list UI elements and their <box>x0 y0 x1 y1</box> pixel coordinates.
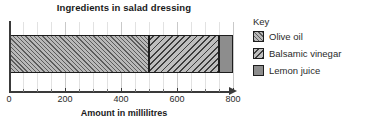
legend-label-olive-oil: Olive oil <box>269 31 303 42</box>
bar-segment-lemon-juice <box>219 35 233 73</box>
xtick-700 <box>205 89 206 92</box>
y-axis-line <box>9 21 11 92</box>
xtick-450 <box>135 89 136 92</box>
xtick-500 <box>149 89 150 92</box>
xtick-650 <box>191 89 192 92</box>
legend-item-olive-oil: Olive oil <box>253 29 371 44</box>
gridline-800 <box>233 22 234 92</box>
x-axis-line <box>9 91 231 93</box>
xtick-400 <box>121 88 122 92</box>
xtick-250 <box>79 89 80 92</box>
xtick-800 <box>233 88 234 92</box>
xtick-label-200: 200 <box>57 94 72 104</box>
x-axis-title: Amount in millilitres <box>9 108 239 118</box>
chart-title: Ingredients in salad dressing <box>9 2 239 13</box>
bar-chart-figure: Ingredients in salad dressing <box>0 0 373 124</box>
balsamic-vinegar-swatch-icon <box>253 48 264 59</box>
xtick-50 <box>23 89 24 92</box>
legend-label-lemon-juice: Lemon juice <box>269 65 320 76</box>
xtick-550 <box>163 89 164 92</box>
xtick-600 <box>177 88 178 92</box>
legend: Key Olive oil Balsamic vinegar Lemon jui… <box>253 16 371 80</box>
xtick-300 <box>93 89 94 92</box>
xtick-100 <box>37 89 38 92</box>
legend-title: Key <box>253 16 371 27</box>
bar-segment-balsamic-vinegar <box>149 35 219 73</box>
xtick-350 <box>107 89 108 92</box>
xtick-label-400: 400 <box>113 94 128 104</box>
legend-item-lemon-juice: Lemon juice <box>253 63 371 78</box>
lemon-juice-swatch-icon <box>253 65 264 76</box>
xtick-label-0: 0 <box>6 94 11 104</box>
bar-segment-olive-oil <box>9 35 149 73</box>
xtick-label-600: 600 <box>169 94 184 104</box>
legend-item-balsamic-vinegar: Balsamic vinegar <box>253 46 371 61</box>
olive-oil-swatch-icon <box>253 31 264 42</box>
xtick-200 <box>65 88 66 92</box>
xtick-750 <box>219 89 220 92</box>
legend-label-balsamic-vinegar: Balsamic vinegar <box>269 48 341 59</box>
xtick-label-800: 800 <box>225 94 240 104</box>
xtick-150 <box>51 89 52 92</box>
xtick-0 <box>9 88 10 92</box>
